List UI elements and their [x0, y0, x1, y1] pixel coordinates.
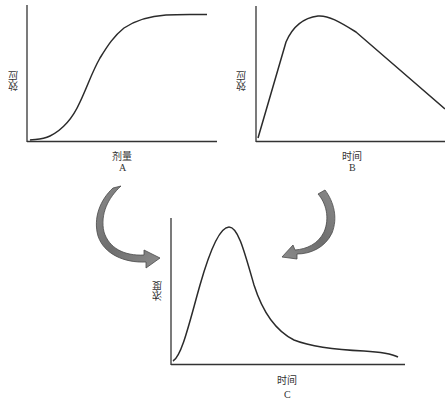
panel-a-curve [30, 14, 207, 140]
panel-b-curve [258, 16, 445, 138]
panel-c-caption: C [284, 389, 291, 400]
panel-b-y-label: 效应 [234, 71, 249, 91]
panel-a-caption: A [119, 162, 126, 173]
panel-c-x-label: 时间 [277, 372, 297, 387]
panel-a-y-label: 效应 [6, 71, 21, 91]
panel-b [256, 6, 445, 142]
panel-a-x-label: 剂量 [112, 148, 132, 163]
diagram-canvas [0, 0, 445, 406]
panel-c [171, 218, 405, 365]
curved-arrow-b-to-c [282, 190, 335, 259]
arrow-left-body [96, 186, 160, 268]
panel-a [27, 5, 217, 142]
panel-c-y-label: 浓度 [150, 281, 165, 301]
panel-b-caption: B [349, 162, 356, 173]
panel-b-x-label: 时间 [342, 148, 362, 163]
panel-c-curve [173, 227, 398, 361]
curved-arrow-a-to-c [96, 186, 160, 268]
arrow-right-body [282, 190, 335, 259]
